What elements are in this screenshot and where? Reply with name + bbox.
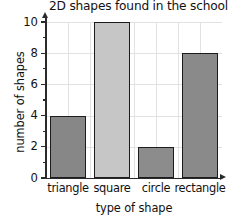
y-axis-tick-minor bbox=[43, 162, 47, 163]
gridline-vertical bbox=[90, 22, 91, 178]
y-axis-tick-major bbox=[41, 84, 46, 85]
bar-chart-figure: 2D shapes found in the school hall numbe… bbox=[0, 0, 230, 221]
gridline-vertical bbox=[178, 22, 179, 178]
y-axis-tick-minor bbox=[43, 37, 47, 38]
y-axis-tick-major bbox=[41, 177, 46, 178]
y-axis-tick-label: 2 bbox=[16, 141, 38, 152]
x-axis-arrow-icon bbox=[220, 174, 226, 180]
y-axis-tick-major bbox=[41, 115, 46, 116]
y-axis-tick-major bbox=[41, 53, 46, 54]
y-axis-tick-label: 4 bbox=[16, 110, 38, 121]
x-axis-title: type of shape bbox=[46, 202, 222, 215]
bar-rectangle bbox=[182, 53, 219, 178]
y-axis-tick-minor bbox=[43, 68, 47, 69]
y-axis-tick-minor bbox=[43, 99, 47, 100]
y-axis-tick-label: 8 bbox=[16, 48, 38, 59]
bar-square bbox=[94, 22, 131, 178]
bar-circle bbox=[138, 147, 175, 178]
plot-area bbox=[46, 22, 222, 178]
y-axis-tick-label: 10 bbox=[16, 17, 38, 28]
x-axis-line bbox=[45, 178, 221, 180]
y-axis-arrow-icon bbox=[42, 12, 48, 18]
y-axis-tick-label: 0 bbox=[16, 173, 38, 184]
gridline-vertical bbox=[134, 22, 135, 178]
bar-triangle bbox=[50, 116, 87, 178]
y-axis-tick-label: 6 bbox=[16, 79, 38, 90]
chart-title: 2D shapes found in the school hall bbox=[49, 0, 230, 14]
y-axis-tick-minor bbox=[43, 131, 47, 132]
x-axis-tick-label: rectangle bbox=[174, 182, 226, 195]
y-axis-line bbox=[45, 17, 47, 179]
y-axis-tick-major bbox=[41, 21, 46, 22]
y-axis-tick-major bbox=[41, 146, 46, 147]
